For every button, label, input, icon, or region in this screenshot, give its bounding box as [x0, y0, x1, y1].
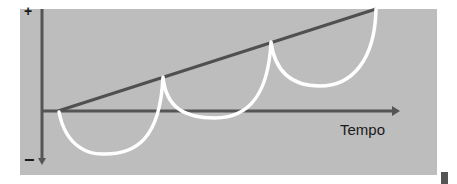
diagram-canvas	[0, 0, 457, 184]
diagram: + − Tempo	[0, 0, 457, 184]
positive-sign: +	[24, 4, 32, 18]
x-axis-label: Tempo	[340, 122, 385, 137]
corner-mark	[441, 172, 448, 184]
negative-sign: −	[24, 151, 35, 169]
